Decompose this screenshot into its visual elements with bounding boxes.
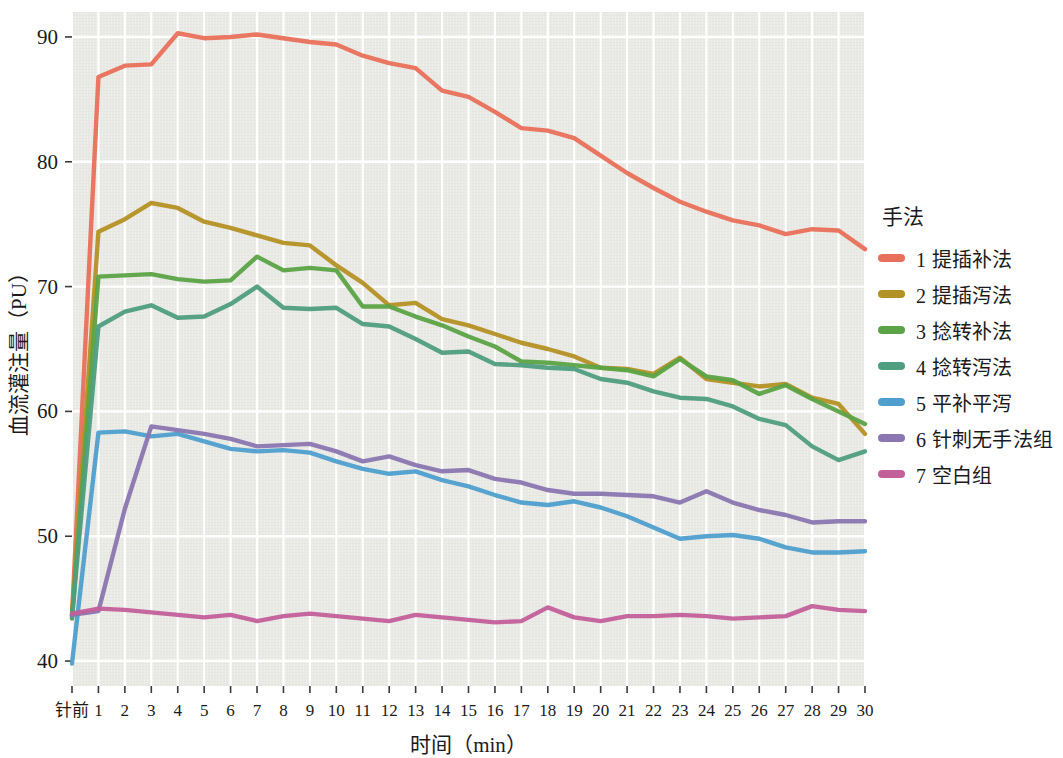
y-tick-label: 70 bbox=[37, 275, 58, 299]
chart-legend: 手法 1 提插补法2 提插泻法3 捻转补法4 捻转泻法5 平补平泻6 针刺无手法… bbox=[878, 200, 1063, 492]
legend-color-swatch-icon bbox=[878, 434, 905, 442]
x-tick-label: 30 bbox=[857, 701, 874, 720]
x-tick-label: 25 bbox=[724, 701, 741, 720]
x-tick-label: 19 bbox=[566, 701, 583, 720]
y-tick-label: 80 bbox=[37, 150, 58, 174]
legend-color-swatch-icon bbox=[878, 470, 905, 478]
legend-color-swatch-icon bbox=[878, 290, 905, 298]
legend-item[interactable]: 1 提插补法 bbox=[878, 240, 1063, 276]
x-tick-label: 23 bbox=[671, 701, 688, 720]
legend-item-label: 3 捻转补法 bbox=[916, 316, 1013, 345]
legend-item[interactable]: 6 针刺无手法组 bbox=[878, 420, 1063, 456]
x-tick-label: 20 bbox=[592, 701, 609, 720]
legend-item[interactable]: 5 平补平泻 bbox=[878, 384, 1063, 420]
x-tick-label: 18 bbox=[539, 701, 556, 720]
x-axis-title: 时间（min） bbox=[410, 733, 527, 757]
legend-color-swatch-icon bbox=[878, 398, 905, 406]
chart-figure: 405060708090针前12345678910111213141516171… bbox=[0, 0, 1063, 758]
x-tick-label: 7 bbox=[253, 701, 262, 720]
x-tick-label: 针前 bbox=[55, 701, 89, 720]
y-axis-title: 血流灌注量（PU） bbox=[7, 262, 31, 436]
x-tick-label: 15 bbox=[460, 701, 477, 720]
x-tick-label: 9 bbox=[306, 701, 315, 720]
x-tick-label: 1 bbox=[94, 701, 103, 720]
x-tick-label: 4 bbox=[173, 701, 182, 720]
x-tick-label: 29 bbox=[830, 701, 847, 720]
legend-color-swatch-icon bbox=[878, 254, 905, 262]
x-tick-label: 24 bbox=[698, 701, 716, 720]
x-tick-label: 28 bbox=[804, 701, 821, 720]
legend-item-label: 1 提插补法 bbox=[916, 244, 1013, 273]
legend-item-label: 7 空白组 bbox=[916, 460, 993, 489]
y-tick-label: 90 bbox=[37, 25, 58, 49]
x-tick-label: 10 bbox=[328, 701, 345, 720]
x-tick-label: 5 bbox=[200, 701, 209, 720]
legend-item-label: 6 针刺无手法组 bbox=[916, 424, 1053, 453]
x-tick-label: 17 bbox=[513, 701, 531, 720]
legend-item-label: 2 提插泻法 bbox=[916, 280, 1013, 309]
legend-color-swatch-icon bbox=[878, 326, 905, 334]
x-tick-label: 21 bbox=[619, 701, 636, 720]
legend-item-label: 5 平补平泻 bbox=[916, 388, 1013, 417]
x-tick-label: 26 bbox=[751, 701, 768, 720]
legend-item-label: 4 捻转泻法 bbox=[916, 352, 1013, 381]
y-tick-label: 40 bbox=[37, 649, 58, 673]
x-tick-label: 14 bbox=[434, 701, 452, 720]
y-axis: 405060708090 bbox=[37, 25, 72, 673]
x-tick-label: 27 bbox=[777, 701, 795, 720]
x-tick-label: 22 bbox=[645, 701, 662, 720]
x-tick-label: 3 bbox=[147, 701, 156, 720]
x-tick-label: 6 bbox=[226, 701, 235, 720]
legend-item[interactable]: 2 提插泻法 bbox=[878, 276, 1063, 312]
x-tick-label: 11 bbox=[355, 701, 371, 720]
x-axis: 针前12345678910111213141516171819202122232… bbox=[55, 686, 874, 720]
legend-color-swatch-icon bbox=[878, 362, 905, 370]
x-tick-label: 16 bbox=[486, 701, 503, 720]
x-tick-label: 8 bbox=[279, 701, 288, 720]
legend-item[interactable]: 4 捻转泻法 bbox=[878, 348, 1063, 384]
x-tick-label: 12 bbox=[381, 701, 398, 720]
x-tick-label: 13 bbox=[407, 701, 424, 720]
y-tick-label: 50 bbox=[37, 524, 58, 548]
legend-items: 1 提插补法2 提插泻法3 捻转补法4 捻转泻法5 平补平泻6 针刺无手法组7 … bbox=[878, 240, 1063, 492]
legend-title: 手法 bbox=[882, 200, 1063, 230]
legend-item[interactable]: 7 空白组 bbox=[878, 456, 1063, 492]
legend-item[interactable]: 3 捻转补法 bbox=[878, 312, 1063, 348]
x-tick-label: 2 bbox=[121, 701, 130, 720]
y-tick-label: 60 bbox=[37, 399, 58, 423]
